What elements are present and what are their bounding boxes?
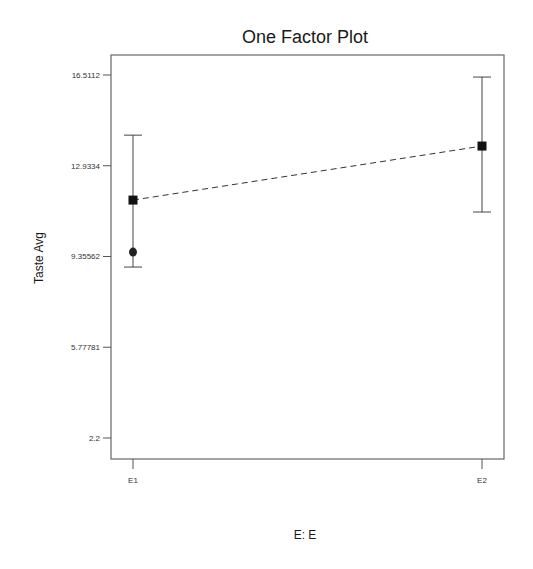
y-tick-label: 2.2 (89, 434, 101, 443)
x-axis: E1E2 (128, 459, 487, 485)
data-markers (129, 142, 487, 257)
design-point-circle-marker (129, 248, 137, 257)
y-tick-label: 9.35562 (71, 252, 100, 261)
x-tick-label: E2 (477, 476, 487, 485)
x-axis-label: E: E (294, 528, 317, 542)
y-tick-label: 16.5112 (72, 71, 101, 80)
mean-square-marker (129, 196, 138, 205)
y-axis-label: Taste Avg (32, 232, 46, 284)
x-tick-label: E1 (128, 476, 138, 485)
plot-frame (111, 55, 504, 459)
y-tick-label: 5.77781 (71, 343, 100, 352)
one-factor-plot: One Factor Plot 16.511212.93349.355625.7… (0, 0, 533, 569)
mean-trend-line (133, 146, 482, 200)
mean-square-marker (478, 142, 487, 151)
chart-title: One Factor Plot (242, 27, 368, 47)
y-tick-label: 12.9334 (71, 162, 100, 171)
y-axis: 16.511212.93349.355625.777812.2 (71, 71, 111, 443)
error-bars (124, 77, 491, 267)
